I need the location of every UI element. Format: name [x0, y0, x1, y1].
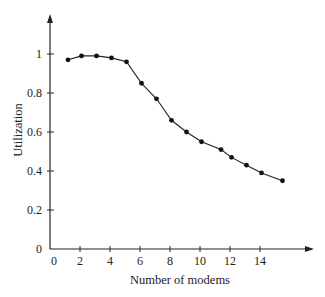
x-tick-label: 4: [107, 254, 113, 268]
data-point-marker: [199, 139, 204, 144]
utilization-chart: 0246810121400.20.40.60.81 Number of mode…: [0, 0, 325, 297]
data-point-marker: [184, 130, 189, 135]
data-point-marker: [109, 56, 114, 61]
data-point-marker: [169, 118, 174, 123]
data-point-marker: [154, 96, 159, 101]
x-tick-label: 2: [77, 254, 83, 268]
data-point-marker: [229, 155, 234, 160]
x-tick-label: 14: [254, 254, 266, 268]
x-tick-label: 12: [224, 254, 236, 268]
y-tick-label: 1: [36, 47, 42, 61]
y-tick-label: 0.8: [27, 86, 42, 100]
x-tick-label: 10: [194, 254, 206, 268]
y-axis-label: Utilization: [11, 103, 25, 157]
data-point-marker: [280, 178, 285, 183]
data-point-marker: [219, 147, 224, 152]
x-axis-arrow-icon: [305, 246, 314, 252]
data-point-marker: [94, 54, 99, 59]
data-point-marker: [79, 54, 84, 59]
data-point-marker: [244, 163, 249, 168]
data-point-marker: [66, 57, 71, 62]
y-tick-label: 0.6: [27, 125, 42, 139]
x-tick-label: 0: [51, 254, 57, 268]
data-point-marker: [139, 81, 144, 86]
series-line: [68, 56, 283, 181]
data-point-marker: [259, 171, 264, 176]
y-tick-label: 0.2: [27, 203, 42, 217]
y-tick-label: 0: [36, 242, 42, 256]
x-tick-label: 8: [167, 254, 173, 268]
x-tick-label: 6: [137, 254, 143, 268]
y-axis-arrow-icon: [47, 14, 53, 23]
data-series: [66, 54, 285, 184]
x-axis-label: Number of modems: [130, 273, 230, 287]
y-tick-label: 0.4: [27, 164, 42, 178]
axes: [47, 14, 314, 252]
data-point-marker: [124, 59, 129, 64]
